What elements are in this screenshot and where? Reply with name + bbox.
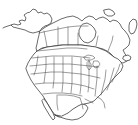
coastline-greenland-edge <box>129 19 137 34</box>
coastline-arctic-island <box>104 9 115 16</box>
coastline-conterminous-us <box>26 45 123 117</box>
coastline-newfoundland <box>123 55 131 61</box>
coastline-aleutian-islands <box>3 25 11 28</box>
distribution-map-figure: North America distribution map <box>0 0 138 125</box>
boundary-florida <box>97 97 105 108</box>
north-america-map <box>0 0 138 125</box>
